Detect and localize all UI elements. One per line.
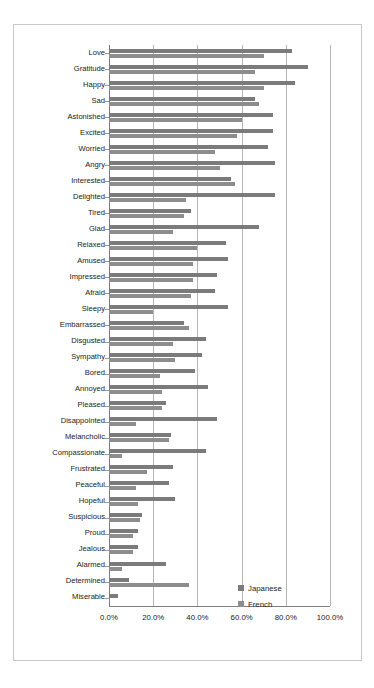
bar-french (109, 310, 153, 314)
bar-french (109, 358, 175, 362)
bar-japanese (109, 353, 202, 357)
bar-french (109, 278, 193, 282)
bar-japanese (109, 465, 173, 469)
bar-french (109, 534, 133, 538)
bar-japanese (109, 129, 273, 133)
category-label: Tired (88, 209, 105, 217)
bar-row: Melancholic (109, 430, 330, 446)
bar-row: Hopeful (109, 494, 330, 510)
category-label: Disgusted (71, 337, 105, 345)
bar-japanese (109, 193, 275, 197)
x-tick-label: 40.0% (186, 613, 208, 622)
category-label: Jealous (79, 545, 105, 553)
category-label: Afraid (85, 289, 105, 297)
bar-japanese (109, 401, 166, 405)
x-tick-label: 60.0% (231, 613, 253, 622)
bar-japanese (109, 449, 206, 453)
bar-japanese (109, 369, 195, 373)
bar-japanese (109, 417, 217, 421)
category-label: Angry (85, 161, 105, 169)
bar-japanese (109, 513, 142, 517)
bar-french (109, 486, 136, 490)
bar-japanese (109, 209, 191, 213)
bar-row: Worried (109, 141, 330, 157)
bar-french (109, 567, 122, 571)
bar-japanese (109, 65, 308, 69)
bar-japanese (109, 497, 175, 501)
chart-frame: LoveGratitudeHappySadAstonishedExcitedWo… (13, 24, 362, 661)
bar-french (109, 374, 160, 378)
bar-french (109, 166, 220, 170)
category-label: Astonished (67, 113, 105, 121)
bar-row: Glad (109, 221, 330, 237)
category-label: Sad (91, 97, 105, 105)
category-label: Happy (83, 81, 105, 89)
bar-japanese (109, 433, 171, 437)
category-label: Delighted (73, 193, 105, 201)
bar-japanese (109, 113, 273, 117)
bar-row: Frustrated (109, 462, 330, 478)
bar-french (109, 454, 122, 458)
bar-row: Peaceful (109, 478, 330, 494)
legend-label: French (248, 600, 272, 609)
bar-french (109, 134, 237, 138)
category-label: Melancholic (65, 433, 105, 441)
bar-french (109, 86, 264, 90)
bar-row: Angry (109, 157, 330, 173)
bar-french (109, 294, 191, 298)
bar-row: Happy (109, 77, 330, 93)
bar-french (109, 230, 173, 234)
category-label: Proud (85, 529, 105, 537)
category-label: Pleased (78, 401, 105, 409)
bar-french (109, 390, 162, 394)
category-label: Peaceful (75, 481, 105, 489)
bar-row: Disappointed (109, 414, 330, 430)
category-label: Alarmed (77, 561, 105, 569)
bar-japanese (109, 225, 259, 229)
bar-japanese (109, 81, 295, 85)
bar-japanese (109, 177, 231, 181)
bar-japanese (109, 481, 169, 485)
bar-row: Sad (109, 93, 330, 109)
bar-french (109, 70, 255, 74)
bar-row: Sympathy (109, 350, 330, 366)
bar-french (109, 583, 189, 587)
top-faint-text (0, 0, 374, 18)
bar-japanese (109, 257, 228, 261)
category-label: Amused (77, 257, 105, 265)
category-label: Sympathy (71, 353, 105, 361)
bar-row: Annoyed (109, 382, 330, 398)
chart-page: LoveGratitudeHappySadAstonishedExcitedWo… (0, 0, 374, 688)
category-label: Gratitude (74, 65, 105, 73)
bar-row: Sleepy (109, 301, 330, 317)
bar-row: Bored (109, 366, 330, 382)
bar-japanese (109, 337, 206, 341)
bar-row: Gratitude (109, 61, 330, 77)
bar-row: Embarrassed (109, 317, 330, 333)
square-swatch-icon (238, 601, 244, 607)
bar-french (109, 118, 242, 122)
bar-row: Love (109, 45, 330, 61)
category-label: Suspicious (68, 513, 105, 521)
bar-french (109, 182, 235, 186)
square-swatch-icon (238, 585, 244, 591)
bar-french (109, 262, 193, 266)
y-axis-tick (105, 598, 109, 599)
x-tick-label: 100.0% (317, 613, 343, 622)
category-label: Compassionate (52, 449, 105, 457)
bar-row: Compassionate (109, 446, 330, 462)
bar-french (109, 150, 215, 154)
bar-french (109, 102, 259, 106)
category-label: Determined (66, 577, 105, 585)
bar-row: Suspicious (109, 510, 330, 526)
category-label: Sleepy (82, 305, 105, 313)
bar-french (109, 422, 136, 426)
bar-japanese (109, 161, 275, 165)
category-label: Excited (80, 129, 105, 137)
plot-area: LoveGratitudeHappySadAstonishedExcitedWo… (109, 45, 330, 606)
category-label: Annoyed (75, 385, 105, 393)
bar-japanese (109, 545, 138, 549)
legend-label: Japanese (248, 584, 282, 593)
category-label: Hopeful (79, 497, 105, 505)
x-tick-label: 80.0% (275, 613, 297, 622)
